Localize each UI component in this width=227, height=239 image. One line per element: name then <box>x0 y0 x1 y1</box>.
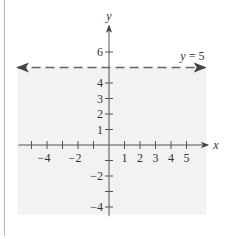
y-tick-label: 6 <box>97 45 103 59</box>
y-tick-label: 2 <box>97 107 103 121</box>
equation-rest: = 5 <box>186 49 205 63</box>
equation-label: y = 5 <box>179 49 204 63</box>
x-tick-label: −2 <box>69 151 82 165</box>
shaded-region <box>18 68 207 215</box>
coordinate-plane: −4−212345 64321−2−4 x y y = 5 <box>0 0 227 239</box>
x-tick-label: −4 <box>38 151 51 165</box>
x-axis-label: x <box>212 138 219 152</box>
y-axis-label: y <box>105 9 112 23</box>
x-tick-label: 1 <box>122 151 128 165</box>
y-tick-label: 3 <box>97 92 103 106</box>
y-tick-label: −2 <box>90 169 103 183</box>
x-tick-label: 3 <box>153 151 159 165</box>
y-tick-label: 4 <box>97 76 103 90</box>
y-tick-label: 1 <box>97 123 103 137</box>
x-tick-label: 5 <box>184 151 190 165</box>
y-tick-label: −4 <box>90 200 103 214</box>
x-tick-label: 2 <box>137 151 143 165</box>
x-tick-label: 4 <box>168 151 174 165</box>
